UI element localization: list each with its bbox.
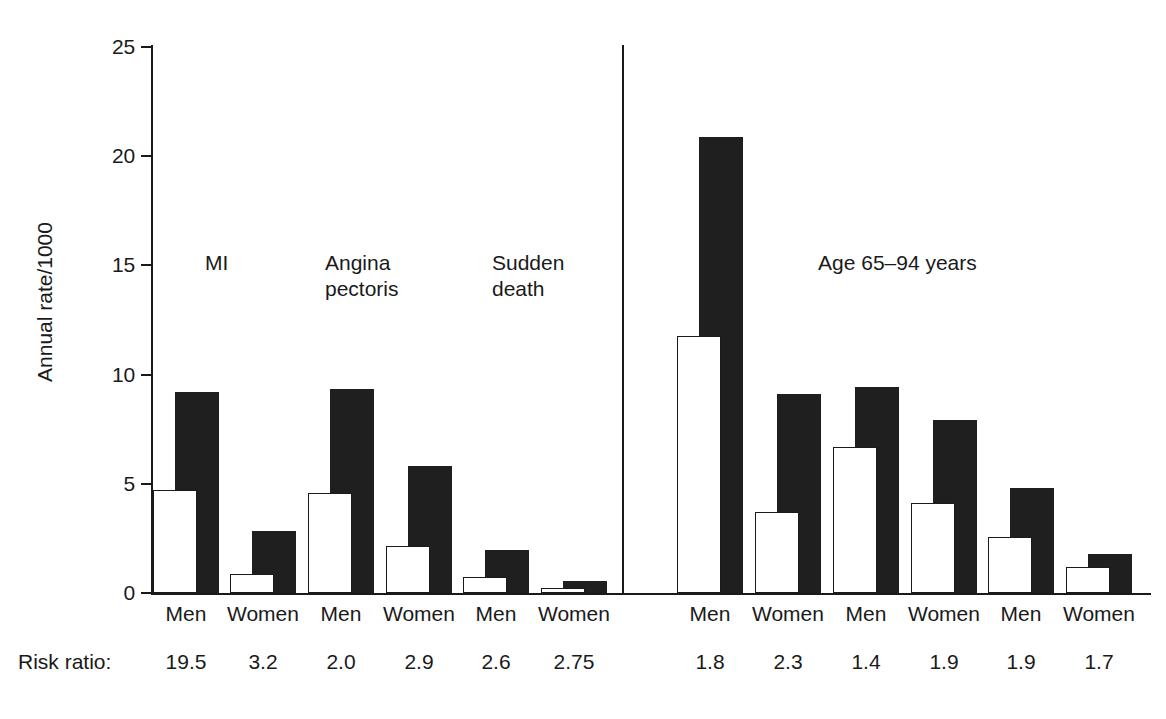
bar-white: [386, 546, 430, 593]
risk-ratio-value-11: 1.7: [1039, 650, 1159, 674]
annotation-angina: Angina pectoris: [325, 250, 399, 302]
category-label-women-11: Women: [1039, 602, 1159, 626]
bar-white: [230, 574, 274, 593]
category-label-women-5: Women: [514, 602, 634, 626]
annotation-mi: MI: [205, 250, 228, 276]
bar-white: [755, 512, 799, 593]
risk-ratio-value-5: 2.75: [514, 650, 634, 674]
bar-white: [463, 577, 507, 593]
bar-white: [988, 537, 1032, 593]
annotation-age: Age 65–94 years: [818, 250, 977, 276]
bar-white: [308, 493, 352, 593]
bar-white: [911, 503, 955, 593]
bar-white: [833, 447, 877, 593]
x-axis-line: [151, 593, 1151, 595]
bars-layer: [0, 0, 1166, 593]
bar-white: [153, 490, 197, 593]
annotation-sudden: Sudden death: [492, 250, 564, 302]
bar-white: [677, 336, 721, 593]
bar-white: [1066, 567, 1110, 593]
bar-white: [541, 588, 585, 593]
risk-ratio-row-label: Risk ratio:: [18, 650, 111, 674]
bar-chart: Annual rate/1000 2520151050 MenWomenMenW…: [0, 0, 1166, 719]
